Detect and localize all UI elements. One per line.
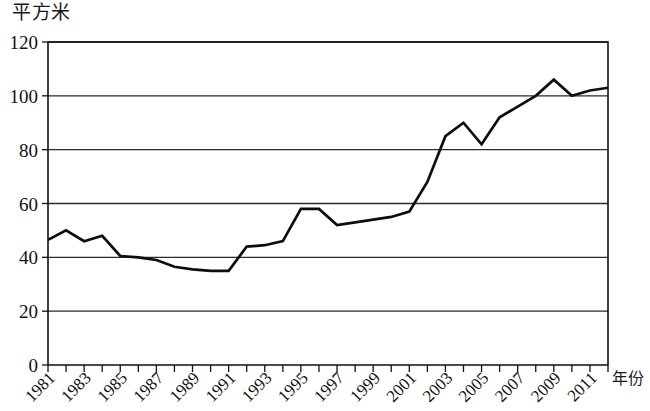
y-tick-label: 60 [19,194,38,215]
x-tick-label: 1987 [130,368,168,406]
x-tick-label: 2001 [383,368,420,405]
grid-lines [48,42,608,311]
y-tick-label: 100 [10,86,39,107]
x-tick-label: 2003 [419,368,456,405]
x-tick-label: 1993 [238,368,275,405]
x-tick-label: 2011 [564,368,601,405]
y-tick-label: 20 [19,301,38,322]
y-tick-label: 80 [19,140,38,161]
x-tick-label: 1989 [166,368,203,405]
x-tick-label: 1991 [202,368,239,405]
x-tick-label: 1995 [274,368,311,405]
x-tick-label: 2007 [491,368,529,406]
x-tick-label: 1981 [21,368,58,405]
y-tick-label: 120 [10,32,39,53]
x-tick-label: 1999 [347,368,384,405]
x-axis-ticks: 1981198319851987198919911993199519971999… [21,365,608,406]
y-axis-ticks: 020406080100120 [10,32,49,376]
plot-area: 020406080100120 198119831985198719891991… [0,0,650,411]
y-tick-label: 40 [19,247,38,268]
line-chart: 平方米 年份 020406080100120 19811983198519871… [0,0,650,411]
x-tick-label: 1985 [94,368,131,405]
y-tick-label: 0 [29,355,39,376]
x-tick-label: 2005 [455,368,492,405]
data-series-line [48,80,608,271]
x-tick-label: 1983 [57,368,94,405]
x-tick-label: 2009 [527,368,564,405]
x-tick-label: 1997 [310,368,348,406]
